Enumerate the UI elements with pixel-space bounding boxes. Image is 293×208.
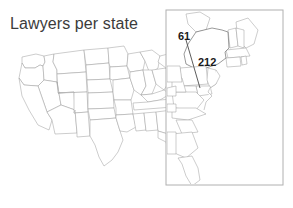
map-figure: Lawyers per state (0, 0, 293, 208)
value-label-61: 61 (178, 30, 190, 42)
inset-panel: 61 212 (166, 10, 283, 186)
map-canvas: 61 212 (0, 0, 293, 208)
value-label-212: 212 (198, 56, 216, 68)
